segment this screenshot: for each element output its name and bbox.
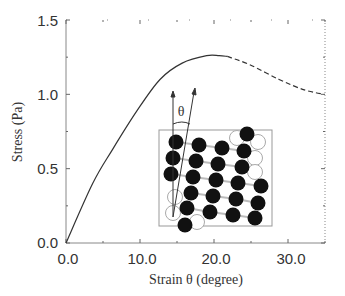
filled-particle: [251, 196, 266, 211]
y-tick-labels: 0.0 0.5 1.0 1.5: [37, 12, 58, 251]
filled-particle: [189, 154, 204, 169]
x-tick-labels: 0.0 10.0 20.0 30.0: [58, 250, 306, 267]
filled-particle: [211, 157, 226, 172]
filled-particle: [186, 170, 201, 185]
filled-particle: [237, 144, 252, 159]
filled-particle: [169, 135, 184, 150]
filled-particle: [164, 167, 179, 182]
filled-particle: [206, 189, 221, 204]
filled-particle: [184, 186, 199, 201]
filled-particle: [178, 218, 193, 233]
filled-particle: [192, 138, 207, 153]
curve-dashed: [227, 56, 324, 94]
filled-particle: [209, 173, 224, 188]
hollow-particle: [248, 165, 263, 180]
theta-label: θ: [178, 104, 185, 119]
y-tick-label: 1.5: [37, 12, 58, 29]
y-tick-label: 0.5: [37, 160, 58, 177]
inset-lattice: θ: [159, 88, 272, 233]
filled-particle: [254, 179, 269, 194]
x-tick-label: 20.0: [201, 250, 230, 267]
y-tick-label: 0.0: [37, 234, 58, 251]
x-axis-title: Strain θ (degree): [149, 272, 243, 288]
filled-particle: [235, 160, 250, 175]
angle-arc: [173, 122, 190, 124]
arrow-head-icon: [192, 88, 196, 95]
filled-particle: [240, 127, 255, 142]
filled-particle: [229, 192, 244, 207]
x-tick-label: 0.0: [58, 250, 79, 267]
y-tick-label: 1.0: [37, 86, 58, 103]
filled-particle: [203, 205, 218, 220]
stress-strain-chart: 0.0 0.5 1.0 1.5 0.0 10.0 20.0 30.0 Strai…: [0, 0, 345, 296]
filled-particle: [248, 211, 263, 226]
x-tick-label: 30.0: [276, 250, 305, 267]
y-axis-title: Stress (Pa): [10, 102, 26, 163]
filled-particle: [226, 208, 241, 223]
x-tick-label: 10.0: [127, 250, 156, 267]
arrow-head-icon: [171, 91, 175, 97]
filled-particle: [231, 176, 246, 191]
filled-particle: [180, 201, 195, 216]
filled-particle: [215, 141, 230, 156]
